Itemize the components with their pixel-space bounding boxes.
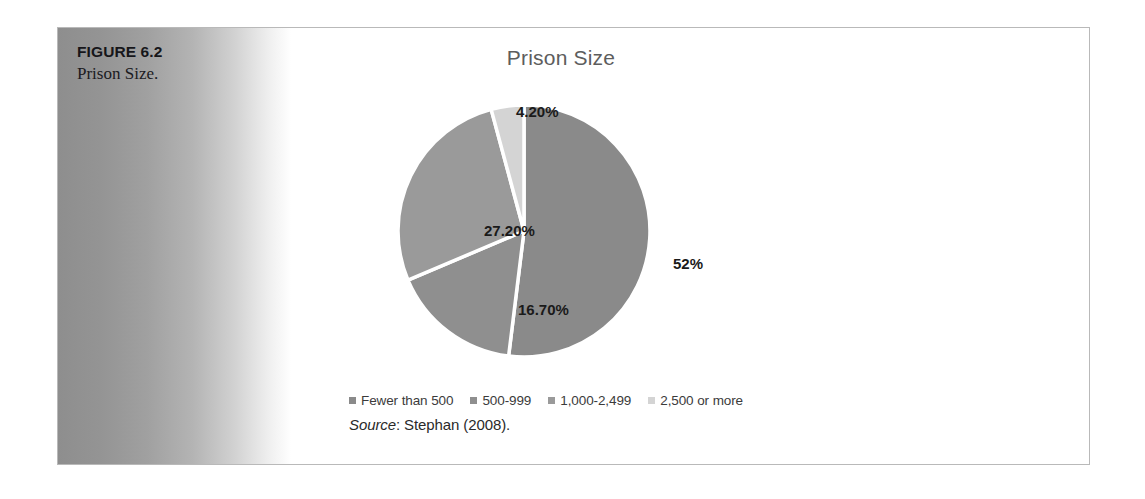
legend-item-label: Fewer than 500: [361, 393, 453, 408]
legend-swatch-icon: [349, 397, 356, 404]
chart-legend: Fewer than 500500-9991,000-2,4992,500 or…: [349, 393, 760, 408]
caption-text-block: FIGURE 6.2 Prison Size.: [77, 42, 267, 85]
legend-swatch-icon: [548, 397, 555, 404]
pie-chart-svg: [336, 83, 816, 383]
legend-item[interactable]: 2,500 or more: [648, 393, 743, 408]
legend-swatch-icon: [470, 397, 477, 404]
source-citation: : Stephan (2008).: [396, 416, 510, 433]
chart-title: Prison Size: [291, 46, 831, 70]
legend-item-label: 1,000-2,499: [560, 393, 631, 408]
pie-label-500-999: 16.70%: [518, 301, 569, 318]
figure-caption-panel: FIGURE 6.2 Prison Size.: [58, 28, 291, 464]
pie-label-1000-2499: 27.20%: [484, 222, 535, 239]
pie-chart: 4.20% 27.20% 16.70% 52%: [336, 83, 816, 383]
figure-caption: Prison Size.: [77, 63, 267, 85]
legend-item-label: 500-999: [482, 393, 531, 408]
chart-area: Prison Size 4.20% 27.20% 16.70% 52% Fewe…: [291, 28, 1089, 464]
legend-item[interactable]: 1,000-2,499: [548, 393, 631, 408]
pie-label-2500-or-more: 4.20%: [516, 103, 559, 120]
legend-swatch-icon: [648, 397, 655, 404]
figure-number: FIGURE 6.2: [77, 42, 267, 61]
legend-item-label: 2,500 or more: [660, 393, 743, 408]
source-label: Source: [349, 416, 396, 433]
legend-item[interactable]: 500-999: [470, 393, 531, 408]
source-line: Source: Stephan (2008).: [349, 416, 510, 433]
pie-label-fewer-than-500: 52%: [673, 255, 703, 272]
legend-item[interactable]: Fewer than 500: [349, 393, 453, 408]
figure-frame: FIGURE 6.2 Prison Size. Prison Size 4.20…: [57, 27, 1090, 465]
